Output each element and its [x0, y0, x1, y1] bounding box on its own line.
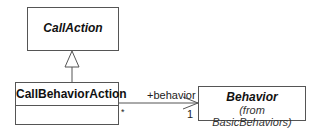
class-name: CallBehaviorAction	[16, 87, 118, 101]
class-name: CallAction	[28, 21, 118, 35]
package-note: (from BasicBehaviors)	[199, 104, 305, 128]
class-behavior[interactable]: Behavior (from BasicBehaviors)	[198, 86, 306, 121]
class-callaction[interactable]: CallAction	[27, 7, 119, 51]
target-multiplicity: 1	[187, 108, 193, 120]
attribute-compartment-divider	[16, 105, 118, 106]
class-callbehavioraction[interactable]: CallBehaviorAction	[15, 82, 119, 125]
generalization-arrowhead-icon	[65, 51, 79, 67]
class-name: Behavior	[199, 90, 305, 104]
source-multiplicity: *	[121, 107, 125, 117]
role-label: +behavior	[147, 89, 196, 101]
